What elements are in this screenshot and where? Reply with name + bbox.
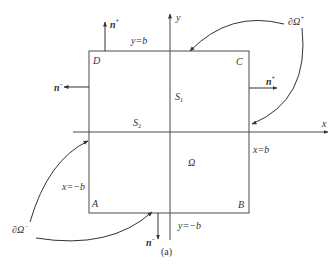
edge-right-label: x=b: [252, 144, 269, 155]
figure-caption: (a): [161, 246, 172, 258]
region-omega-label: Ω: [188, 157, 195, 168]
corner-d-label: D: [92, 55, 101, 66]
region-s1-label: S1: [175, 91, 183, 103]
normal-left-label: n−: [54, 81, 64, 93]
domain-diagram: x y D C A B y=b y=−b x=−b x=b S1 S2 Ω n+…: [0, 0, 331, 268]
normal-right-label: n+: [266, 75, 276, 87]
y-axis-label: y: [175, 12, 181, 23]
boundary-minus-label: ∂Ω−: [12, 223, 28, 235]
normal-top-label: n+: [110, 18, 120, 30]
region-s2-label: S2: [133, 117, 141, 129]
corner-b-label: B: [238, 199, 244, 210]
corner-a-label: A: [91, 198, 99, 209]
x-axis-label: x: [321, 118, 327, 129]
boundary-plus-curve-top: [190, 20, 284, 51]
boundary-plus-curve-right: [252, 28, 303, 124]
edge-left-label: x=−b: [61, 181, 85, 192]
normal-bottom-label: n−: [146, 236, 156, 248]
corner-c-label: C: [236, 56, 243, 67]
edge-top-label: y=b: [130, 35, 147, 46]
boundary-minus-curve-bottom: [36, 212, 152, 241]
boundary-plus-label: ∂Ω+: [288, 15, 304, 27]
edge-bottom-label: y=−b: [177, 220, 201, 231]
